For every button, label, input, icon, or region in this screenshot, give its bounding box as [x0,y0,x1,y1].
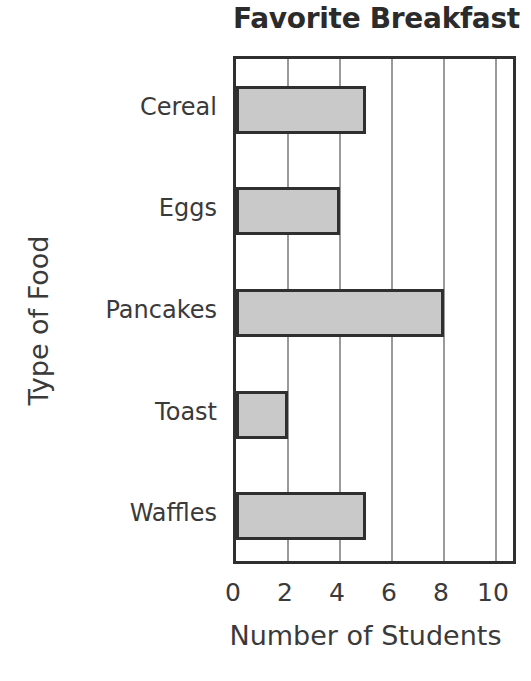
category-label-pancakes: Pancakes [105,286,217,334]
y-axis-category-labels: CerealEggsPancakesToastWaffles [60,56,225,564]
x-tick-label: 8 [421,578,461,607]
x-axis-title: Number of Students [200,620,531,651]
x-tick-label: 4 [317,578,357,607]
x-tick-label: 0 [213,578,253,607]
x-tick-label: 2 [265,578,305,607]
gridline [495,59,497,561]
bar-chart: Favorite Breakfast Type of Food CerealEg… [0,0,531,681]
category-label-cereal: Cereal [140,83,217,131]
plot-area [233,56,516,564]
bar-cereal [236,86,366,134]
x-tick-label: 6 [369,578,409,607]
x-axis-tick-labels: 0246810 [233,578,516,612]
category-label-eggs: Eggs [159,184,217,232]
x-tick-label: 10 [473,578,513,607]
chart-title: Favorite Breakfast [222,2,531,36]
category-label-waffles: Waffles [130,489,217,537]
bar-waffles [236,492,366,540]
bar-pancakes [236,289,444,337]
category-label-toast: Toast [155,388,217,436]
bar-toast [236,391,288,439]
bar-eggs [236,187,340,235]
y-axis-title: Type of Food [23,201,54,441]
